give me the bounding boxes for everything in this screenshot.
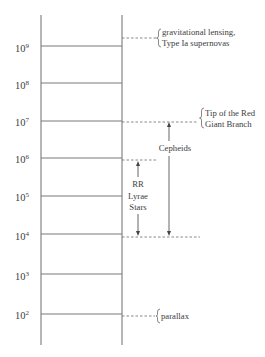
arrow-up-icon — [167, 122, 171, 127]
cepheids-label: Cepheids — [159, 143, 192, 153]
brace-icon — [200, 108, 205, 128]
tick-label-1e3: 103 — [15, 270, 30, 283]
tick-label-1e8: 108 — [15, 79, 30, 92]
annotation-line: Tip of the Red — [205, 108, 256, 118]
tick-label-1e5: 105 — [15, 191, 30, 204]
annotation-rr-lyrae: RR Lyrae Stars — [128, 161, 148, 236]
axis-tick-labels: 109 108 107 106 105 104 103 102 — [15, 42, 30, 322]
ladder-rungs — [41, 46, 122, 314]
annotation-gravitational-lensing: gravitational lensing, Type Ia supernova… — [122, 27, 235, 48]
tick-label-1e9: 109 — [15, 42, 30, 55]
tick-label-1e2: 102 — [15, 309, 30, 322]
tick-label-1e7: 107 — [15, 116, 30, 129]
rr-lyrae-label-line: Lyrae — [128, 191, 148, 201]
arrow-down-icon — [167, 231, 171, 236]
annotation-line: gravitational lensing, — [162, 27, 235, 37]
tick-label-1e4: 104 — [15, 230, 30, 243]
annotation-line: Giant Branch — [205, 119, 252, 129]
brace-icon — [156, 309, 160, 323]
annotation-trgb: Tip of the Red Giant Branch — [122, 108, 256, 129]
arrow-down-icon — [136, 231, 140, 236]
annotation-cepheids: Cepheids — [159, 122, 192, 236]
distance-ladder-diagram: 109 108 107 106 105 104 103 102 gravitat… — [0, 0, 265, 357]
rr-lyrae-label-line: Stars — [129, 202, 147, 212]
parallax-label: parallax — [161, 311, 190, 321]
tick-label-1e6: 106 — [15, 153, 30, 166]
annotation-parallax: parallax — [122, 309, 190, 323]
arrow-up-icon — [136, 161, 140, 166]
brace-icon — [157, 29, 162, 47]
annotation-line: Type Ia supernovas — [162, 38, 230, 48]
rr-lyrae-label-line: RR — [132, 179, 144, 189]
